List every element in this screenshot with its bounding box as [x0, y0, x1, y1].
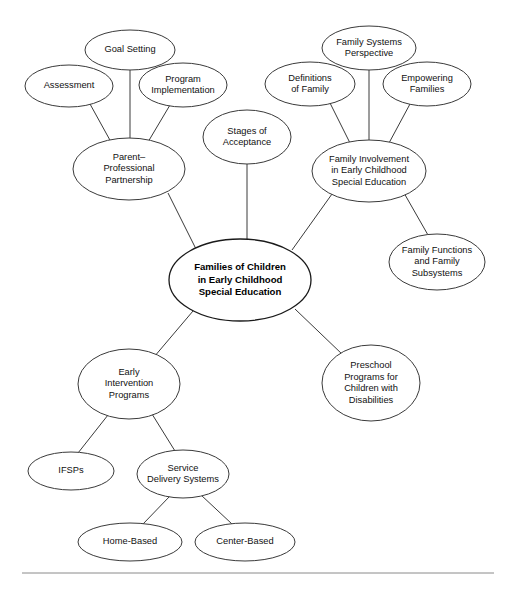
node-empowering-families[interactable]: EmpoweringFamilies	[383, 62, 471, 106]
node-label-line: Parent–	[113, 152, 146, 162]
node-early-intervention-programs[interactable]: EarlyInterventionPrograms	[78, 349, 180, 419]
node-preschool-programs[interactable]: PreschoolPrograms forChildren withDisabi…	[322, 345, 420, 421]
node-central[interactable]: Families of Childrenin Early ChildhoodSp…	[169, 239, 311, 321]
node-stages-of-acceptance[interactable]: Stages ofAcceptance	[203, 110, 291, 164]
edge-connector	[143, 496, 170, 524]
node-label-line: Partnership	[105, 175, 153, 185]
node-label-line: Subsystems	[412, 268, 463, 278]
node-label-line: of Family	[291, 84, 329, 94]
edge-connector	[389, 104, 410, 143]
node-parent-professional-partnership[interactable]: Parent–ProfessionalPartnership	[73, 138, 185, 200]
node-label-line: in Early Childhood	[331, 165, 406, 175]
edge-connector	[78, 415, 108, 453]
node-label-line: Program	[165, 74, 201, 84]
node-assessment[interactable]: Assessment	[25, 65, 113, 107]
node-label-line: Preschool	[350, 360, 391, 370]
edge-connector	[330, 103, 350, 143]
edge-connector	[148, 105, 170, 142]
node-label-line: Early	[118, 367, 140, 377]
node-label-line: Programs	[109, 390, 150, 400]
node-definitions-of-family[interactable]: Definitionsof Family	[265, 62, 355, 106]
node-label-line: Family Involvement	[329, 154, 409, 164]
node-label-line: Definitions	[288, 73, 332, 83]
node-label-line: Family Functions	[402, 245, 473, 255]
node-center-based[interactable]: Center-Based	[195, 523, 295, 561]
node-label-line: Families	[410, 84, 445, 94]
node-label-line: IFSPs	[58, 465, 84, 475]
node-label-line: and Family	[414, 256, 460, 266]
node-label-line: Disabilities	[349, 395, 394, 405]
concept-map-diagram: Families of Childrenin Early ChildhoodSp…	[0, 0, 511, 595]
node-home-based[interactable]: Home-Based	[78, 523, 182, 561]
node-label-line: Stages of	[227, 126, 267, 136]
node-family-involvement[interactable]: Family Involvementin Early ChildhoodSpec…	[312, 140, 426, 202]
node-label-line: Special Education	[199, 286, 282, 297]
node-family-systems-perspective[interactable]: Family SystemsPerspective	[322, 26, 416, 70]
node-family-functions-and-subsystems[interactable]: Family Functionsand FamilySubsystems	[389, 234, 485, 290]
edge-connector	[404, 193, 428, 235]
node-label-line: Implementation	[151, 85, 215, 95]
node-label-line: Perspective	[345, 48, 394, 58]
node-ifsps[interactable]: IFSPs	[28, 452, 114, 490]
node-label-line: Children with	[344, 383, 398, 393]
node-goal-setting[interactable]: Goal Setting	[85, 30, 175, 70]
edge-connector	[154, 311, 193, 357]
edge-connector	[152, 414, 175, 451]
node-label-line: Intervention	[105, 378, 154, 388]
concept-map-canvas: Families of Childrenin Early ChildhoodSp…	[0, 0, 511, 595]
node-label-line: Assessment	[44, 80, 95, 90]
node-label-line: Special Education	[332, 177, 406, 187]
node-label-line: Delivery Systems	[147, 474, 219, 484]
node-label-line: in Early Childhood	[198, 274, 283, 285]
node-label-line: Goal Setting	[104, 44, 155, 54]
node-label-line: Empowering	[401, 73, 453, 83]
node-label-line: Family Systems	[336, 37, 402, 47]
node-label-line: Service	[167, 463, 198, 473]
node-label-line: Families of Children	[194, 261, 286, 272]
node-label-line: Center-Based	[216, 536, 273, 546]
edge-connector	[292, 194, 332, 250]
node-label-line: Acceptance	[223, 137, 272, 147]
edge-connector	[201, 495, 232, 524]
node-label-line: Professional	[103, 163, 154, 173]
node-service-delivery-systems[interactable]: ServiceDelivery Systems	[137, 450, 229, 498]
node-program-implementation[interactable]: ProgramImplementation	[139, 63, 227, 107]
edge-connector	[168, 193, 197, 251]
edge-connector	[295, 309, 343, 355]
node-label-line: Programs for	[344, 372, 398, 382]
nodes-layer: Families of Childrenin Early ChildhoodSp…	[25, 26, 485, 561]
node-label-line: Home-Based	[103, 536, 157, 546]
edge-connector	[90, 104, 111, 142]
